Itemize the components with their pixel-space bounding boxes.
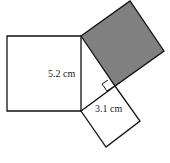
- label-3-1-cm: 3.1 cm: [95, 103, 122, 114]
- small-square: [81, 86, 140, 147]
- label-5-2-cm: 5.2 cm: [48, 68, 75, 79]
- shaded-square: [81, 1, 164, 86]
- pythagoras-diagram: 5.2 cm 3.1 cm: [0, 0, 170, 163]
